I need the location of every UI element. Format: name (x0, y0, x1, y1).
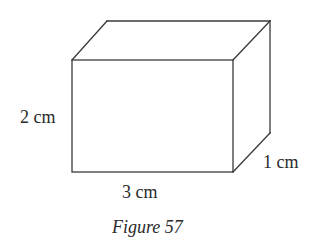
front-face (72, 60, 233, 172)
length-label: 3 cm (122, 182, 158, 202)
height-label: 2 cm (20, 107, 56, 127)
top-left-depth-edge (72, 21, 107, 60)
top-right-depth-edge (233, 21, 270, 60)
cuboid-diagram: 2 cm 1 cm 3 cm Figure 57 (0, 0, 321, 249)
depth-label: 1 cm (263, 152, 299, 172)
figure-caption: Figure 57 (111, 217, 184, 237)
